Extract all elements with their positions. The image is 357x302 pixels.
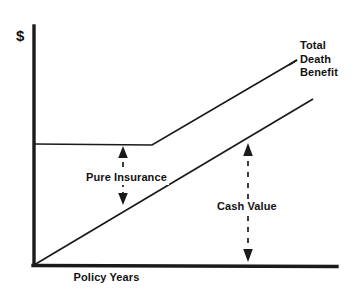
y-axis-title: $ [16,28,24,44]
total-death-benefit-label-line-3: Benefit [300,66,338,80]
x-axis-title: Policy Years [0,271,357,284]
cash-value-arrowhead-down [243,249,253,262]
insurance-chart-figure: $ Policy Years Total Death Benefit Pure … [0,0,357,302]
total-death-benefit-label-line-2: Death [300,53,338,67]
total-death-benefit-label: Total Death Benefit [300,39,338,80]
pure-insurance-label: Pure Insurance [84,170,169,185]
x-axis-line [33,266,337,267]
cash-value-label: Cash Value [215,199,279,214]
chart-axes [33,26,337,267]
pure-insurance-arrowhead-up [118,146,128,158]
cash-value-arrowhead-up [243,143,253,156]
cash-value-line [34,99,313,265]
pure-insurance-arrowhead-down [118,193,128,205]
total-death-benefit-leader-line [289,60,297,65]
total-death-benefit-label-line-1: Total [300,39,338,53]
